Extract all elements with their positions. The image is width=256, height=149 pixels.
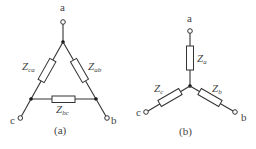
wye-label-za: Za: [197, 52, 207, 66]
wye-terminal-c: [144, 110, 149, 115]
delta-label-zbc: Zbc: [56, 103, 70, 117]
delta-node-c-label: c: [10, 114, 15, 126]
delta-node-a-label: a: [60, 1, 65, 13]
delta-terminal-c: [18, 116, 23, 121]
wye-resistor-za: [187, 46, 194, 70]
wye-label-zc: Zc: [154, 82, 164, 96]
delta-resistor-zab: [70, 58, 88, 82]
delta-label-zca: Zca: [22, 60, 35, 74]
wye-label-zb: Zb: [212, 82, 222, 96]
circuit-diagram: a Zca Zab Zbc c b (a): [0, 0, 256, 149]
delta-network: a Zca Zab Zbc c b (a): [10, 1, 117, 137]
wye-network: a Za Zb b Zc c (b): [136, 12, 247, 138]
delta-resistor-zca: [38, 58, 56, 82]
delta-terminal-a: [61, 20, 66, 25]
delta-terminal-b: [105, 116, 110, 121]
wye-node-a-label: a: [187, 12, 192, 24]
delta-label-zab: Zab: [88, 60, 102, 74]
wye-terminal-b: [233, 110, 238, 115]
wye-node-b-label: b: [241, 111, 247, 123]
wye-caption: (b): [179, 125, 192, 138]
delta-node-b-label: b: [111, 114, 117, 126]
wye-terminal-a: [188, 29, 193, 34]
wye-node-c-label: c: [136, 106, 141, 118]
delta-resistor-zbc: [52, 96, 75, 103]
delta-caption: (a): [54, 124, 67, 137]
